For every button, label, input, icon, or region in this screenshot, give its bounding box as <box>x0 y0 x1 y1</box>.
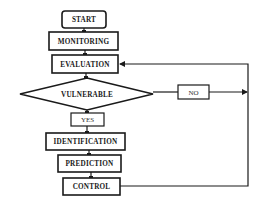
node-control: CONTROL <box>63 178 120 195</box>
node-evaluation-label: EVALUATION <box>60 61 110 69</box>
node-yes: YES <box>71 113 104 126</box>
node-monitoring: MONITORING <box>49 32 118 50</box>
node-evaluation: EVALUATION <box>52 55 118 73</box>
node-no-label: NO <box>188 89 198 97</box>
node-monitoring-label: MONITORING <box>58 38 110 46</box>
node-no: NO <box>178 85 209 99</box>
node-vulnerable: VULNERABLE <box>20 78 153 110</box>
node-identification-label: IDENTIFICATION <box>54 138 118 146</box>
node-yes-label: YES <box>81 116 94 124</box>
node-control-label: CONTROL <box>73 183 111 191</box>
node-start: START <box>62 11 106 28</box>
node-vulnerable-label: VULNERABLE <box>61 91 113 99</box>
node-prediction-label: PREDICTION <box>66 160 115 168</box>
edge-control-evaluation-loop <box>120 64 248 186</box>
node-start-label: START <box>72 16 96 24</box>
node-prediction: PREDICTION <box>58 155 121 172</box>
node-identification: IDENTIFICATION <box>46 133 125 150</box>
flowchart: START MONITORING EVALUATION VULNERABLE N… <box>0 0 265 207</box>
